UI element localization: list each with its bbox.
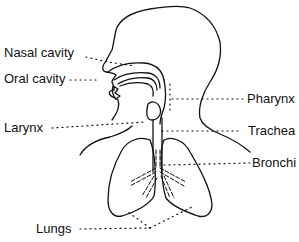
lung-left	[108, 138, 155, 216]
leader-bronchi	[164, 163, 250, 165]
shoulder-left	[80, 126, 132, 155]
label-larynx: Larynx	[4, 121, 43, 135]
leader-lungs-left	[80, 228, 150, 229]
label-lungs: Lungs	[36, 222, 71, 236]
label-pharynx: Pharynx	[247, 92, 295, 106]
tongue	[120, 83, 153, 96]
leader-nasal	[86, 57, 135, 66]
lung-right	[161, 139, 212, 217]
larynx-shape	[147, 102, 161, 120]
leader-lungs-2	[150, 206, 194, 228]
leader-lungs-1	[128, 212, 150, 228]
respiratory-diagram	[0, 0, 299, 242]
label-oral-cavity: Oral cavity	[4, 72, 65, 86]
palate-inner2	[118, 78, 157, 90]
label-nasal-cavity: Nasal cavity	[4, 46, 74, 60]
label-trachea: Trachea	[248, 124, 295, 138]
head-outline	[103, 6, 250, 152]
pharynx-wall	[160, 80, 166, 124]
label-bronchi: Bronchi	[252, 156, 296, 170]
